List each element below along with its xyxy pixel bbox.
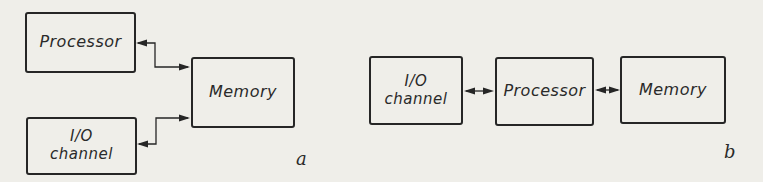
arrowhead-left-icon <box>137 141 148 148</box>
box-io-channel-b: I/O channel <box>369 56 463 125</box>
box-label: Processor <box>503 83 585 100</box>
arrowhead-left-icon <box>464 88 475 95</box>
arrowhead-right-icon <box>179 64 190 71</box>
box-memory-a: Memory <box>191 57 295 128</box>
box-label-line1: I/O <box>405 74 428 90</box>
arrowhead-left-icon <box>595 87 606 94</box>
scanned-figure-page: Processor I/O channel Memory a I/O chann… <box>0 0 763 182</box>
connector-io-memory-a <box>137 115 190 148</box>
arrowhead-right-icon <box>179 115 190 122</box>
box-processor-b: Processor <box>495 57 594 126</box>
box-memory-b: Memory <box>620 56 726 124</box>
box-label: Processor <box>39 34 121 51</box>
connector-io-processor-b <box>464 88 494 95</box>
arrowhead-left-icon <box>136 40 147 47</box>
figure-label-b: b <box>724 141 736 162</box>
box-label: Memory <box>639 82 707 99</box>
box-label: Memory <box>209 84 277 101</box>
connector-processor-memory-a <box>136 40 190 71</box>
box-label-line1: I/O <box>70 129 93 145</box>
figure-label-a: a <box>296 148 307 169</box>
box-label-line2: channel <box>385 92 448 108</box>
arrowhead-right-icon <box>483 88 494 95</box>
box-processor-a: Processor <box>25 12 136 73</box>
connector-processor-memory-b <box>595 87 620 94</box>
box-label-line2: channel <box>50 147 113 163</box>
arrowhead-right-icon <box>609 87 620 94</box>
box-io-channel-a: I/O channel <box>26 117 137 175</box>
